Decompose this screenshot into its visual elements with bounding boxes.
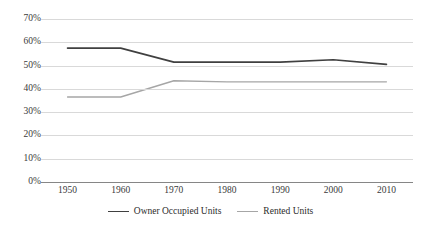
line-chart: 70% 60% 50% 40% 30% 20% 10% 0% 1950 1960… (0, 0, 421, 232)
gridline-40 (41, 89, 413, 90)
x-axis-line (41, 182, 413, 183)
y-axis-tick-label: 60% (0, 38, 41, 48)
gridline-20 (41, 135, 413, 136)
y-axis-tick-label: 50% (0, 61, 41, 71)
gridline-10 (41, 159, 413, 160)
legend-item-owner-occupied-units: Owner Occupied Units (108, 207, 222, 217)
legend-item-rented-units: Rented Units (237, 207, 313, 217)
gridline-50 (41, 66, 413, 67)
x-axis-tick-label: 2010 (377, 186, 396, 196)
plot-area (41, 19, 413, 182)
y-axis-tick-label: 20% (0, 131, 41, 141)
x-axis-tick-label: 1970 (164, 186, 183, 196)
legend-line-swatch-icon (108, 211, 129, 212)
y-axis-tick-label: 40% (0, 84, 41, 94)
chart-legend: Owner Occupied Units Rented Units (0, 207, 421, 217)
y-axis-tick-label: 70% (0, 14, 41, 24)
x-axis-tick-label: 1960 (111, 186, 130, 196)
x-axis-tick-label: 1990 (271, 186, 290, 196)
y-axis-tick-label: 30% (0, 107, 41, 117)
x-axis-tick-label: 1980 (218, 186, 237, 196)
legend-line-swatch-icon (237, 211, 258, 212)
x-axis: 1950 1960 1970 1980 1990 2000 2010 (41, 186, 413, 200)
y-axis-tick-label: 0% (0, 177, 41, 187)
series-layer (41, 19, 413, 182)
x-axis-tick-label: 1950 (58, 186, 77, 196)
gridline-60 (41, 42, 413, 43)
x-axis-tick-label: 2000 (324, 186, 343, 196)
series-line-owner-occupied-units (68, 48, 387, 64)
y-axis-tick-label: 10% (0, 154, 41, 164)
gridline-30 (41, 112, 413, 113)
legend-label: Owner Occupied Units (134, 207, 222, 217)
gridline-70 (41, 19, 413, 20)
legend-label: Rented Units (263, 207, 313, 217)
